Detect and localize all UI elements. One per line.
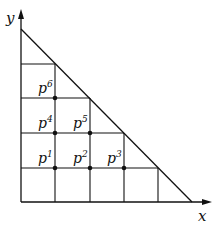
- x-axis-arrow-icon: [202, 199, 212, 205]
- label-p1: p1: [38, 149, 53, 166]
- point-p2: [88, 166, 93, 171]
- axes: [21, 14, 207, 202]
- point-p6: [53, 96, 58, 101]
- x-axis-label: x: [198, 207, 207, 225]
- label-p3: p3: [107, 149, 122, 166]
- point-p4: [53, 131, 58, 136]
- point-p5: [88, 131, 93, 136]
- label-p2: p2: [73, 149, 88, 166]
- label-p6: p6: [38, 79, 53, 96]
- y-axis-label: y: [5, 9, 15, 27]
- label-p4: p4: [38, 114, 53, 131]
- triangle-grid-diagram: y x p1 p2 p3 p4 p5 p6: [0, 0, 220, 229]
- point-p3: [122, 166, 127, 171]
- y-axis-arrow-icon: [18, 9, 24, 19]
- point-labels: p1 p2 p3 p4 p5 p6: [38, 79, 122, 166]
- label-p5: p5: [73, 114, 88, 131]
- point-p1: [53, 166, 58, 171]
